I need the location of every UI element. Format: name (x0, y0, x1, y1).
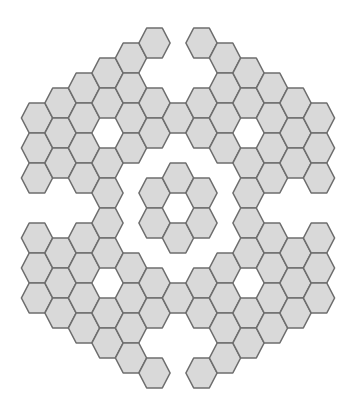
hex-cell (92, 178, 123, 208)
hex-cell (186, 178, 217, 208)
hex-cell (186, 208, 217, 238)
hex-cell (303, 283, 334, 313)
hex-cell (139, 358, 170, 388)
hex-cell (303, 223, 334, 253)
hex-cell (303, 163, 334, 193)
hex-cell (92, 208, 123, 238)
hex-cell (139, 28, 170, 58)
hex-tile-board (0, 0, 357, 420)
hex-cells (21, 28, 334, 388)
hex-cell (303, 133, 334, 163)
hex-cell (303, 253, 334, 283)
hex-cell (303, 103, 334, 133)
